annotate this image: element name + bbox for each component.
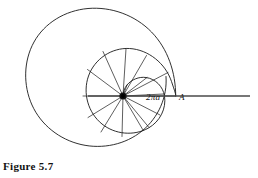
spoke-120deg	[103, 52, 123, 97]
figure-container: 2πa A Figure 5.7	[0, 0, 258, 178]
spoke-210deg	[88, 96, 123, 118]
outer-spiral-curve	[26, 8, 176, 146]
inner-spiral-curve	[86, 48, 176, 133]
label-point-a: A	[179, 93, 185, 102]
spiral-diagram	[0, 0, 258, 178]
label-two-pi-a: 2πa	[146, 93, 160, 102]
spoke-150deg	[88, 70, 124, 97]
spoke-240deg	[101, 96, 123, 132]
figure-caption: Figure 5.7	[3, 160, 53, 172]
pole-point-core	[121, 94, 125, 98]
spoke-270deg	[122, 96, 123, 137]
